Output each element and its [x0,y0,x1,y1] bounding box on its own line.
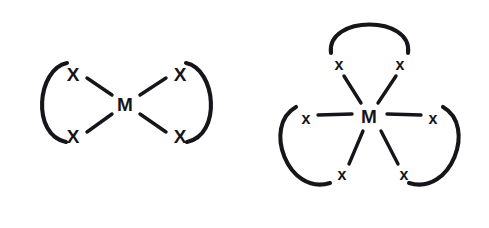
bond-metal-donor-top-left [344,76,361,103]
donor-atom-label-top-left: X [67,64,80,85]
donor-atom-label-bottom-right: X [174,126,187,147]
donor-atom-label-bottom-right: x [400,166,409,183]
donor-atom-label-top-right: X [174,64,187,85]
bond-metal-donor-top-left [87,78,112,95]
bond-metal-donor-bottom-right [381,131,398,164]
metal-center-label: M [361,106,377,127]
structure-bidentate-bis-chelate: X X X X M [42,63,211,147]
structure-tridentate-tris-chelate: x x x x x x M [280,25,458,185]
chelate-backbone-arc-right [186,63,211,142]
bond-metal-donor-bottom-left [349,131,363,164]
bond-metal-donor-mid-left [318,114,352,115]
donor-atom-label-bottom-left: x [338,166,347,183]
donor-atom-label-top-right: x [396,56,405,73]
chelate-complex-diagram-svg: X X X X M x [0,0,489,228]
atom-label-group-left-structure: X X X X M [67,64,187,147]
donor-atom-label-mid-left: x [302,110,311,127]
bond-metal-donor-mid-right [387,114,421,115]
chelate-backbone-arc-left [42,63,67,142]
metal-center-label: M [117,94,133,115]
bond-metal-donor-bottom-left [87,114,112,132]
figure-canvas: X X X X M x [0,0,489,228]
donor-atom-label-mid-right: x [429,110,438,127]
bond-metal-donor-top-right [140,78,166,95]
donor-atom-label-top-left: x [335,56,344,73]
bond-metal-donor-top-right [378,76,396,103]
chelate-backbone-arc-top [331,25,408,54]
atom-label-group-right-structure: x x x x x x M [302,56,438,183]
donor-atom-label-bottom-left: X [67,126,80,147]
bond-metal-donor-bottom-right [140,114,166,132]
